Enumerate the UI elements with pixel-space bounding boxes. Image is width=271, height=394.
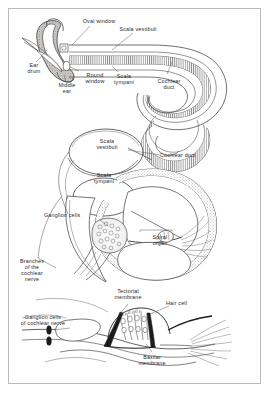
detail-connector-upper [36, 299, 108, 313]
label-cochlear-duct-top: Cochlear duct [150, 78, 188, 90]
scala-vestibuli-chamber [69, 129, 143, 175]
cochlea-second-turn-hatch [142, 121, 210, 172]
tectorial-attachment-curve [168, 316, 212, 330]
cochlea-tail-left [38, 196, 62, 258]
label-scala-tympani-mid: Scala tympani [84, 172, 124, 184]
nerve-bundle-core [160, 345, 192, 346]
label-spiral-organ: Spiral organ [140, 234, 180, 246]
label-round-window: Round window [78, 72, 112, 84]
ganglion-cell-bodies [46, 325, 51, 345]
basilar-membrane-sweep-2 [45, 358, 106, 363]
label-cochlear-duct-mid: Cochlear duct [160, 152, 216, 158]
label-tectorial-membrane: Tectorial membrane [104, 288, 152, 300]
label-ganglion-cells-cochlear-nerve: Ganglion cells of cochlear nerve [12, 314, 74, 326]
round-window-oval [63, 61, 70, 70]
nerve-fiber-fan [188, 320, 232, 366]
spiral-organ-detail-group [22, 299, 232, 367]
spiral-ganglion-cluster [92, 218, 127, 253]
label-scala-tympani-top: Scala tympani [108, 73, 140, 85]
cochlear-duct-hatching [69, 56, 211, 118]
leader-scala-vestibuli-top [112, 33, 133, 50]
leader-scala-tympani-top [112, 66, 118, 72]
label-hair-cell: Hair cell [166, 300, 202, 306]
label-ganglion-cells: Ganglion cells [44, 212, 102, 218]
label-basilar-membrane: Basilar membrane [128, 354, 176, 366]
label-oval-window: Oval window [72, 18, 126, 24]
label-ear-drum: Ear drum [18, 62, 50, 74]
label-scala-vestibuli-mid: Scala vestibuli [86, 138, 128, 150]
label-scala-vestibuli-top: Scala vestibuli [108, 26, 168, 32]
ear-anatomy-illustration [0, 0, 271, 394]
ossicles-box [60, 44, 68, 52]
leader-oval-window [72, 26, 90, 45]
label-branches-cochlear-nerve: Branches of the cochlear nerve [10, 258, 54, 282]
cross-section-left-rim-2 [65, 160, 74, 199]
